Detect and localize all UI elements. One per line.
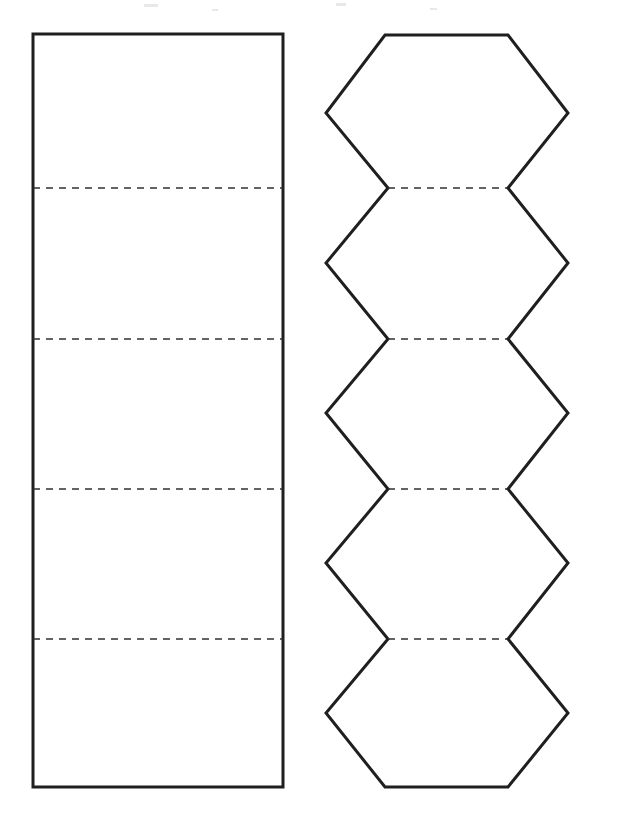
net-diagram-canvas	[0, 0, 622, 829]
rectangular-strip-outline[interactable]	[33, 34, 283, 787]
worksheet-page	[0, 0, 622, 829]
rectangular-strip-figure[interactable]	[33, 34, 283, 787]
hexagon-strip-outline[interactable]	[326, 35, 568, 787]
hexagon-strip-figure[interactable]	[326, 35, 568, 787]
